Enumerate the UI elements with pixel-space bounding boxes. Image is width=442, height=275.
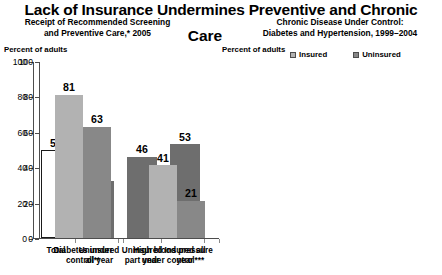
right-cat-label-blood-pressure-line2: under control*** bbox=[127, 256, 219, 266]
right-cat-label-diabetes: Diabetes under control** bbox=[37, 246, 129, 266]
right-x-axis-line bbox=[39, 238, 219, 239]
legend-swatch-insured-icon bbox=[290, 52, 296, 58]
legend-label-uninsured: Uninsured bbox=[362, 51, 401, 59]
left-xsep-3 bbox=[161, 239, 162, 243]
right-cat-label-blood-pressure: High blood pressure under control*** bbox=[127, 246, 219, 266]
right-chart-subtitle-line1: Chronic Disease Under Control: bbox=[240, 17, 440, 28]
right-ytick-40 bbox=[35, 168, 39, 169]
right-xsep-2 bbox=[219, 239, 220, 243]
bar-value-bp-insured: 41 bbox=[157, 153, 169, 164]
left-xsep-1 bbox=[75, 239, 76, 243]
right-chart-subtitle-line2: Diabetes and Hypertension, 1999–2004 bbox=[240, 28, 440, 39]
bar-diabetes-insured[interactable]: 81 bbox=[55, 95, 83, 238]
right-chart-subtitle: Chronic Disease Under Control: Diabetes … bbox=[240, 17, 440, 39]
right-ytick-80 bbox=[35, 97, 39, 98]
legend-item-uninsured[interactable]: Uninsured bbox=[353, 51, 401, 59]
right-ytick-60 bbox=[35, 133, 39, 134]
bar-value-bp-uninsured: 21 bbox=[185, 188, 197, 199]
left-y-axis-title: Percent of adults bbox=[4, 45, 67, 54]
right-chart-panel bbox=[215, 0, 442, 275]
left-chart-subtitle-line1: Receipt of Recommended Screening bbox=[10, 17, 185, 28]
legend-item-insured[interactable]: Insured bbox=[290, 51, 327, 59]
right-y-axis-line bbox=[39, 62, 40, 239]
chart-legend: Insured Uninsured bbox=[290, 51, 401, 59]
right-plot-area: 100 80 60 40 20 0 81 63 41 21 Diabetes u… bbox=[39, 62, 219, 239]
legend-label-insured: Insured bbox=[299, 51, 327, 59]
left-xsep-4 bbox=[204, 239, 205, 243]
right-cat-label-diabetes-line1: Diabetes under control** bbox=[37, 246, 129, 266]
right-cat-label-blood-pressure-line1: High blood pressure bbox=[127, 246, 219, 256]
bar-diabetes-uninsured[interactable]: 63 bbox=[83, 127, 111, 239]
right-y-axis-title: Percent of adults bbox=[222, 45, 285, 54]
left-chart-subtitle: Receipt of Recommended Screening and Pre… bbox=[10, 17, 185, 39]
legend-swatch-uninsured-icon bbox=[353, 52, 359, 58]
left-y-axis-line bbox=[33, 62, 34, 239]
bar-bp-uninsured[interactable]: 21 bbox=[177, 201, 205, 238]
left-xsep-2 bbox=[118, 239, 119, 243]
bar-value-diabetes-uninsured: 63 bbox=[91, 114, 103, 125]
right-ylabel-80: 80 bbox=[23, 93, 33, 102]
left-chart-subtitle-line2: and Preventive Care,* 2005 bbox=[10, 28, 185, 39]
bar-value-diabetes-insured: 81 bbox=[63, 82, 75, 93]
right-ylabel-40: 40 bbox=[23, 164, 33, 173]
right-xsep-1 bbox=[123, 239, 124, 243]
right-ylabel-60: 60 bbox=[23, 129, 33, 138]
bar-bp-insured[interactable]: 41 bbox=[149, 165, 177, 238]
left-ylabel-0: 0 bbox=[22, 235, 27, 244]
right-ytick-20 bbox=[35, 204, 39, 205]
right-ylabel-0: 0 bbox=[28, 235, 33, 244]
right-ylabel-100: 100 bbox=[19, 58, 33, 67]
right-ytick-0 bbox=[35, 239, 39, 240]
right-ylabel-20: 20 bbox=[23, 199, 33, 208]
right-ytick-100 bbox=[35, 62, 39, 63]
